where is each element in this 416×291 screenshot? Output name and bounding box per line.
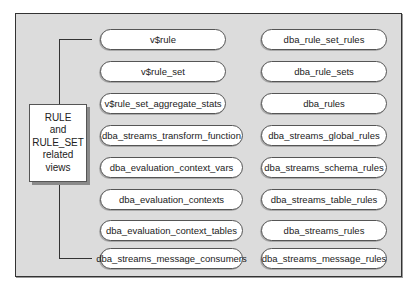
view-pill-right: dba_rule_set_rules	[261, 29, 387, 50]
view-pill-left: v$rule_set_aggregate_stats	[100, 93, 226, 114]
connector-bottom-line	[59, 258, 92, 259]
center-label-line: RULE_SET	[32, 137, 84, 150]
view-pill-right: dba_streams_rules	[261, 220, 387, 241]
center-label-line: and	[50, 124, 67, 137]
connector-top-line	[59, 39, 92, 40]
view-pill-right: dba_streams_message_rules	[261, 248, 387, 269]
view-pill-right: dba_rule_sets	[261, 61, 387, 82]
view-pill-right: dba_rules	[261, 93, 387, 114]
view-pill-left: v$rule	[100, 29, 226, 50]
view-pill-left: dba_streams_message_consumers	[100, 248, 243, 269]
view-pill-left: dba_streams_transform_function	[100, 125, 243, 146]
rule-set-views-box: RULE and RULE_SET related views	[29, 104, 87, 182]
view-pill-left: v$rule_set	[100, 61, 226, 82]
view-pill-left: dba_evaluation_context_vars	[100, 157, 243, 178]
center-label-line: RULE	[45, 112, 72, 125]
center-label-line: views	[45, 162, 70, 175]
view-pill-right: dba_streams_table_rules	[261, 189, 387, 210]
view-pill-left: dba_evaluation_contexts	[100, 189, 243, 210]
center-label-line: related	[43, 149, 74, 162]
view-pill-right: dba_streams_global_rules	[261, 125, 387, 146]
view-pill-right: dba_streams_schema_rules	[261, 157, 387, 178]
view-pill-left: dba_evaluation_context_tables	[100, 220, 243, 241]
